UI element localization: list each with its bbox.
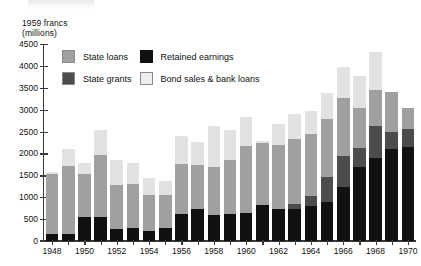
x-tick xyxy=(149,240,150,245)
x-tick xyxy=(133,240,134,245)
bar-segment-loans xyxy=(402,108,415,129)
bar-segment-bonds xyxy=(305,111,318,134)
bar-1958 xyxy=(208,126,221,241)
bar-segment-loans xyxy=(94,155,107,218)
bar-segment-loans xyxy=(385,92,398,131)
x-tick-label: 1950 xyxy=(75,246,94,256)
bar-1953 xyxy=(127,163,140,241)
x-tick xyxy=(181,240,182,245)
x-tick xyxy=(246,240,247,245)
bar-segment-bonds xyxy=(224,130,237,160)
bar-segment-retained xyxy=(402,147,415,241)
bar-1967 xyxy=(353,76,366,241)
x-tick-label: 1958 xyxy=(204,246,223,256)
x-tick xyxy=(295,240,296,245)
bar-1960 xyxy=(240,117,253,241)
x-tick xyxy=(165,240,166,245)
bar-1952 xyxy=(110,160,123,241)
bar-segment-retained xyxy=(94,217,107,241)
x-tick xyxy=(52,240,53,245)
bar-segment-loans xyxy=(240,146,253,213)
y-tick-label: 1000 xyxy=(19,192,38,202)
x-tick xyxy=(359,240,360,245)
y-tick xyxy=(40,66,48,67)
bar-segment-grants xyxy=(385,132,398,150)
bar-segment-bonds xyxy=(369,52,382,89)
bar-1948 xyxy=(46,172,59,241)
y-tick xyxy=(40,153,48,154)
bar-segment-retained xyxy=(175,214,188,241)
x-tick-label: 1966 xyxy=(334,246,353,256)
bar-segment-retained xyxy=(191,209,204,241)
bar-segment-bonds xyxy=(62,149,75,167)
bar-segment-loans xyxy=(78,174,91,218)
y-tick-label: 2000 xyxy=(19,148,38,158)
bar-1966 xyxy=(337,67,350,241)
bar-segment-grants xyxy=(337,156,350,188)
bar-1963 xyxy=(288,114,301,241)
bar-segment-retained xyxy=(272,209,285,241)
bar-segment-bonds xyxy=(175,136,188,164)
y-tick-label: 0 xyxy=(33,236,38,246)
bar-segment-loans xyxy=(159,195,172,228)
bar-segment-retained xyxy=(321,202,334,241)
bar-1965 xyxy=(321,93,334,241)
x-tick xyxy=(262,240,263,245)
bar-1956 xyxy=(175,136,188,242)
x-tick xyxy=(198,240,199,245)
bar-segment-retained xyxy=(256,205,269,241)
plot-area: 050010001500200025003000350040004500 194… xyxy=(44,44,416,241)
bar-segment-loans xyxy=(46,174,59,233)
bar-1961 xyxy=(256,141,269,241)
bar-segment-loans xyxy=(337,98,350,156)
y-tick-label: 500 xyxy=(24,214,38,224)
x-tick xyxy=(311,240,312,245)
bar-segment-retained xyxy=(208,215,221,241)
x-tick-label: 1970 xyxy=(398,246,417,256)
bar-segment-bonds xyxy=(78,163,91,174)
bar-segment-bonds xyxy=(321,93,334,119)
x-tick-label: 1962 xyxy=(269,246,288,256)
bar-1950 xyxy=(78,163,91,241)
bar-segment-retained xyxy=(337,187,350,241)
bar-segment-retained xyxy=(240,213,253,241)
bar-segment-retained xyxy=(78,217,91,241)
bar-segment-bonds xyxy=(337,67,350,98)
y-tick-label: 4500 xyxy=(19,39,38,49)
bar-segment-retained xyxy=(369,158,382,241)
y-tick-label: 2500 xyxy=(19,127,38,137)
x-tick xyxy=(392,240,393,245)
bar-segment-bonds xyxy=(191,142,204,165)
bar-segment-loans xyxy=(175,164,188,215)
bar-segment-retained xyxy=(224,214,237,241)
y-tick xyxy=(40,44,48,45)
x-tick-label: 1952 xyxy=(107,246,126,256)
x-tick xyxy=(68,240,69,245)
bar-segment-retained xyxy=(288,209,301,241)
bar-segment-bonds xyxy=(353,76,366,108)
bar-segment-bonds xyxy=(272,124,285,145)
bar-segment-retained xyxy=(305,206,318,241)
y-tick-label: 3500 xyxy=(19,83,38,93)
bar-1964 xyxy=(305,111,318,241)
bar-segment-bonds xyxy=(159,181,172,195)
y-tick-label: 1500 xyxy=(19,170,38,180)
bar-1949 xyxy=(62,149,75,241)
x-tick xyxy=(117,240,118,245)
bar-segment-loans xyxy=(143,195,156,230)
bar-segment-grants xyxy=(402,129,415,147)
bar-segment-loans xyxy=(288,139,301,204)
bar-segment-loans xyxy=(127,184,140,228)
bar-segment-loans xyxy=(208,167,221,216)
x-tick xyxy=(230,240,231,245)
bar-1968 xyxy=(369,52,382,241)
x-tick xyxy=(327,240,328,245)
bar-segment-bonds xyxy=(240,117,253,147)
bar-1954 xyxy=(143,178,156,241)
bar-segment-grants xyxy=(321,177,334,202)
bar-segment-bonds xyxy=(94,130,107,155)
bar-segment-bonds xyxy=(110,160,123,185)
bar-1962 xyxy=(272,124,285,241)
bar-segment-retained xyxy=(385,149,398,241)
bar-1957 xyxy=(191,142,204,241)
